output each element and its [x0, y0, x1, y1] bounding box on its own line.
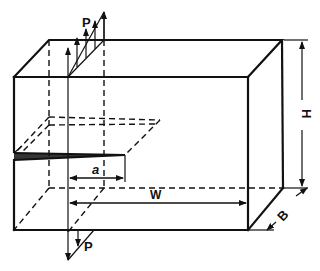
specimen-diagram: P P a W H B — [0, 0, 320, 271]
height-label: H — [299, 109, 314, 118]
thickness-label: B — [274, 207, 291, 224]
width-label: W — [150, 188, 162, 202]
load-label-top: P — [82, 15, 91, 30]
crack-notch — [14, 146, 125, 182]
crack-length-label: a — [92, 162, 99, 177]
load-label-bottom: P — [84, 239, 93, 254]
specimen-block — [14, 40, 283, 230]
